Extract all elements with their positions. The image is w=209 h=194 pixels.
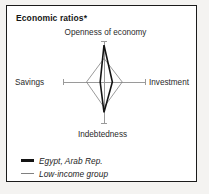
axis-label-openness: Openness of economy xyxy=(65,28,147,37)
axis-label-investment: Investment xyxy=(149,78,189,87)
chart-legend: Egypt, Arab Rep. Low-income group xyxy=(20,154,190,180)
page-title: Economic ratios* xyxy=(16,13,87,23)
axis-label-indebtedness: Indebtedness xyxy=(78,130,127,139)
legend-swatch-low-income xyxy=(20,173,35,174)
axis-label-savings: Savings xyxy=(15,78,44,87)
chart-page: Economic ratios* Openness of economy Inv… xyxy=(0,0,209,194)
chart-panel: Economic ratios* Openness of economy Inv… xyxy=(6,5,197,182)
legend-item: Low-income group xyxy=(20,167,190,180)
legend-label-low-income: Low-income group xyxy=(39,169,108,179)
legend-item: Egypt, Arab Rep. xyxy=(20,154,190,167)
legend-swatch-egypt xyxy=(20,159,35,161)
legend-label-egypt: Egypt, Arab Rep. xyxy=(39,156,103,166)
